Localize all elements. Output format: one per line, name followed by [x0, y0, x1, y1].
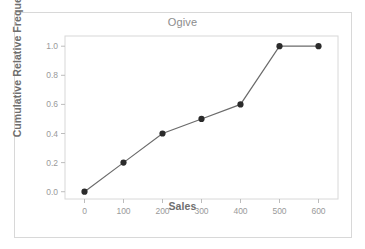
- y-tick-label: 0.4: [46, 129, 58, 139]
- x-axis-ticks: 0100200300400500600: [82, 199, 326, 216]
- y-axis-ticks: 0.00.20.40.60.81.0: [46, 41, 65, 197]
- x-tick-label: 500: [272, 206, 286, 216]
- data-point: [120, 160, 126, 166]
- y-tick-label: 0.8: [46, 70, 58, 80]
- x-tick-label: 0: [82, 206, 87, 216]
- plot-area: 0100200300400500600 0.00.20.40.60.81.0: [0, 0, 365, 249]
- y-tick-label: 0.0: [46, 187, 58, 197]
- x-tick-label: 600: [311, 206, 325, 216]
- x-tick-label: 400: [233, 206, 247, 216]
- y-tick-label: 1.0: [46, 41, 58, 51]
- y-tick-label: 0.2: [46, 158, 58, 168]
- data-point: [159, 130, 165, 136]
- x-tick-label: 100: [116, 206, 130, 216]
- x-tick-label: 300: [194, 206, 208, 216]
- y-tick-label: 0.6: [46, 99, 58, 109]
- data-point: [81, 189, 87, 195]
- chart-figure: Ogive Cumulative Relative Frequency Sale…: [0, 0, 365, 249]
- x-tick-label: 200: [155, 206, 169, 216]
- data-point: [198, 116, 204, 122]
- data-point: [315, 43, 321, 49]
- data-point: [237, 101, 243, 107]
- data-point: [276, 43, 282, 49]
